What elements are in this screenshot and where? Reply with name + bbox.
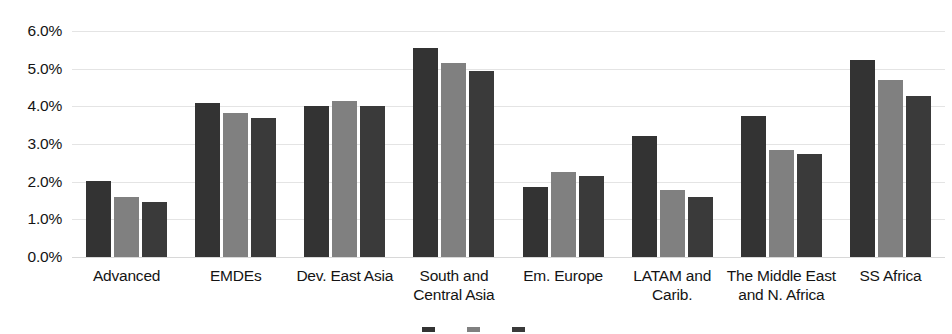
bar[interactable] xyxy=(223,113,248,257)
x-axis-category-label: EMDEs xyxy=(181,259,290,315)
y-axis-tick-label: 6.0% xyxy=(27,22,62,40)
bar[interactable] xyxy=(114,197,139,257)
bar-group xyxy=(836,31,945,257)
bar-group xyxy=(509,31,618,257)
legend-swatch-icon xyxy=(467,327,480,332)
bar[interactable] xyxy=(660,190,685,257)
y-axis: 0.0%1.0%2.0%3.0%4.0%5.0%6.0% xyxy=(0,0,70,334)
bar[interactable] xyxy=(251,118,276,257)
bar[interactable] xyxy=(332,101,357,257)
bar-group xyxy=(181,31,290,257)
x-axis-category-label: The Middle East and N. Africa xyxy=(727,259,836,315)
bar-chart: 0.0%1.0%2.0%3.0%4.0%5.0%6.0% AdvancedEMD… xyxy=(0,0,952,334)
x-axis-category-label: Em. Europe xyxy=(509,259,618,315)
bar[interactable] xyxy=(469,71,494,257)
bar[interactable] xyxy=(413,48,438,257)
bar[interactable] xyxy=(441,63,466,257)
bar[interactable] xyxy=(142,202,167,257)
x-axis-category-label: Advanced xyxy=(72,259,181,315)
plot-area xyxy=(72,31,945,257)
legend-item[interactable] xyxy=(512,327,531,332)
bar[interactable] xyxy=(797,154,822,257)
bar[interactable] xyxy=(195,103,220,257)
legend-item[interactable] xyxy=(422,327,441,332)
chart-legend xyxy=(0,327,952,334)
x-axis-category-label: Dev. East Asia xyxy=(290,259,399,315)
y-axis-tick-label: 0.0% xyxy=(27,248,62,266)
bar[interactable] xyxy=(878,80,903,257)
x-axis-category-label: South and Central Asia xyxy=(399,259,508,315)
y-axis-tick-label: 1.0% xyxy=(27,210,62,228)
bar-group xyxy=(727,31,836,257)
legend-item[interactable] xyxy=(467,327,486,332)
legend-swatch-icon xyxy=(512,327,525,332)
bar[interactable] xyxy=(906,96,931,257)
bar[interactable] xyxy=(688,197,713,257)
bar-groups xyxy=(72,31,945,257)
bar[interactable] xyxy=(360,106,385,257)
x-axis-category-label: LATAM and Carib. xyxy=(618,259,727,315)
x-axis-category-label: SS Africa xyxy=(836,259,945,315)
bar[interactable] xyxy=(769,150,794,257)
bar[interactable] xyxy=(304,106,329,257)
bar[interactable] xyxy=(551,172,576,258)
bar[interactable] xyxy=(579,176,604,257)
x-axis: AdvancedEMDEsDev. East AsiaSouth and Cen… xyxy=(72,259,945,315)
bar-group xyxy=(618,31,727,257)
bar[interactable] xyxy=(632,136,657,257)
y-axis-tick-label: 3.0% xyxy=(27,135,62,153)
y-axis-tick-label: 2.0% xyxy=(27,173,62,191)
bar[interactable] xyxy=(850,60,875,257)
y-axis-tick-label: 5.0% xyxy=(27,60,62,78)
legend-items xyxy=(0,327,952,334)
bar-group xyxy=(399,31,508,257)
bar[interactable] xyxy=(86,181,111,257)
bar[interactable] xyxy=(523,187,548,257)
bar[interactable] xyxy=(741,116,766,257)
bar-group xyxy=(290,31,399,257)
legend-swatch-icon xyxy=(422,327,435,332)
axis-baseline xyxy=(72,257,945,258)
bar-group xyxy=(72,31,181,257)
y-axis-tick-label: 4.0% xyxy=(27,97,62,115)
